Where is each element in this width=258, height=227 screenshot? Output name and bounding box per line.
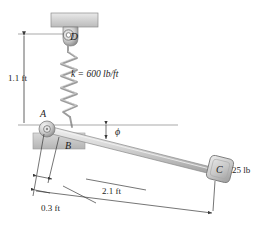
label-point-B: B [65, 141, 71, 151]
long-dimension-line [36, 179, 215, 213]
ceiling-block-icon [51, 13, 98, 27]
label-long-dimension: 2.1 ft [102, 187, 121, 196]
label-height-dimension: 1.1 ft [8, 74, 27, 83]
label-spring-constant: k = 600 lb/ft [71, 70, 118, 80]
figure-canvas: D k = 600 lb/ft 1.1 ft A B ϕ C 25 lb 2.1… [0, 0, 258, 227]
label-point-D: D [70, 31, 78, 42]
label-point-A: A [40, 109, 46, 119]
diagram-svg [0, 0, 258, 227]
label-point-C: C [216, 165, 223, 175]
label-short-dimension: 0.3 ft [41, 204, 60, 213]
label-angle-phi: ϕ [115, 127, 120, 137]
label-block-weight: 25 lb [232, 166, 250, 175]
pin-joint-icon [39, 121, 55, 137]
rod-AC [48, 126, 215, 175]
